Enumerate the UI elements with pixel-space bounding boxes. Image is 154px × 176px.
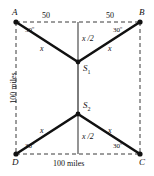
angle-label-at-d: 30º: [25, 143, 34, 150]
dimension-top-right: 50: [106, 12, 114, 20]
diagram-canvas: [0, 0, 154, 176]
vertex-dot-c: [137, 151, 142, 156]
dimension-top-left: 50: [42, 12, 50, 20]
vertex-dot-s1: [76, 60, 81, 65]
segment-label-a-s1: x: [40, 45, 44, 53]
segment-label-c-s2: x: [108, 127, 112, 135]
segment-label-top-center: x /2: [82, 35, 94, 43]
vertex-label-s1-subscript: 1: [88, 69, 91, 75]
vertex-label-s1: S1: [83, 64, 91, 75]
segment-label-b-s1: x: [108, 45, 112, 53]
vertex-label-s2-subscript: 2: [88, 106, 91, 112]
angle-label-at-a: 30º: [25, 27, 34, 34]
vertex-label-s2: S2: [83, 101, 91, 112]
vertex-label-c: C: [139, 158, 145, 167]
vertex-dot-a: [13, 19, 18, 24]
angle-label-at-c: 30º: [113, 143, 122, 150]
dimension-bottom: 100 miles: [53, 160, 84, 168]
segment-label-bottom-center: x /2: [82, 133, 94, 141]
vertex-label-a: A: [12, 8, 18, 17]
angle-label-at-b: 30º: [113, 27, 122, 34]
segment-label-d-s2: x: [40, 127, 44, 135]
dimension-left-side: 100 miles: [10, 60, 18, 116]
vertex-label-b: B: [139, 8, 145, 17]
vertex-dot-d: [13, 151, 18, 156]
vertex-label-d: D: [12, 158, 19, 167]
steiner-network-diagram: A B D C S1 S2 50 50 100 miles 100 miles …: [0, 0, 154, 176]
vertex-dot-b: [137, 19, 142, 24]
vertex-dot-s2: [76, 112, 81, 117]
